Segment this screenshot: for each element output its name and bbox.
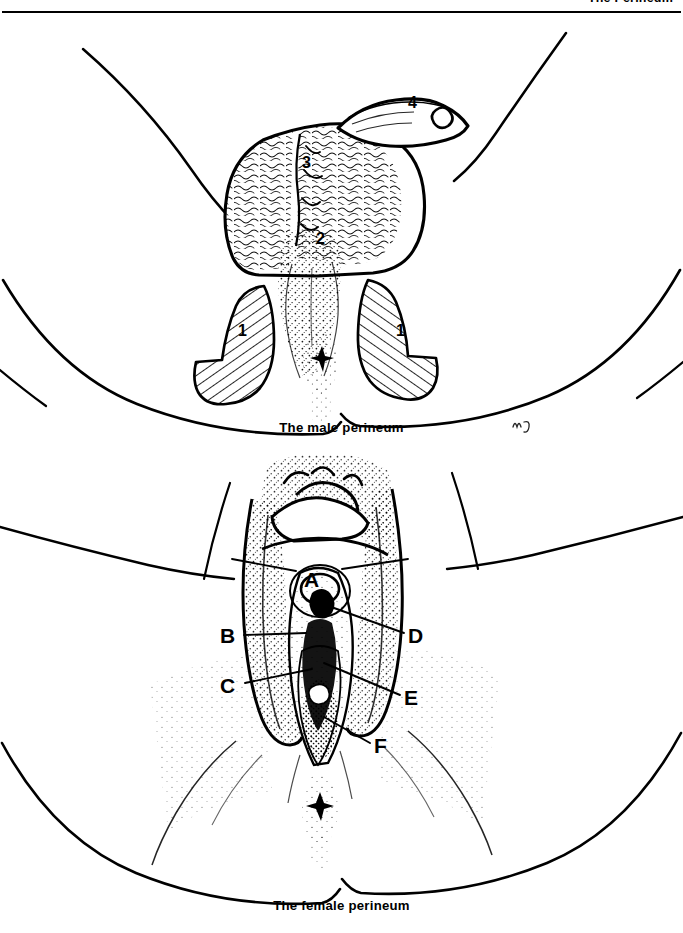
label-3: 3 bbox=[302, 154, 311, 171]
male-lower-body-contour bbox=[0, 270, 683, 434]
male-anus bbox=[303, 328, 337, 424]
label-d: D bbox=[408, 624, 423, 647]
label-4: 4 bbox=[408, 94, 417, 111]
label-e: E bbox=[404, 686, 418, 709]
label-c: C bbox=[220, 674, 235, 697]
figure-male-perineum: 1 1 2 3 4 The male perineum bbox=[0, 18, 683, 438]
male-thigh-cut-surface-right bbox=[358, 280, 438, 400]
male-perineum-illustration: 1 1 2 3 4 bbox=[0, 18, 683, 420]
label-1-right: 1 bbox=[396, 322, 405, 339]
label-b: B bbox=[220, 624, 235, 647]
female-lower-body-contour bbox=[2, 733, 681, 904]
label-2: 2 bbox=[316, 230, 325, 247]
header-rule bbox=[2, 11, 681, 13]
label-1-left: 1 bbox=[238, 322, 247, 339]
figure-female-perineum: A B C D E F The female perineum bbox=[0, 455, 683, 923]
male-figure-caption: The male perineum bbox=[0, 420, 683, 435]
female-perineum-illustration: A B C D E F bbox=[0, 455, 683, 895]
female-figure-caption: The female perineum bbox=[0, 898, 683, 913]
male-thigh-cut-surface-left bbox=[194, 286, 274, 404]
male-penis bbox=[338, 99, 468, 147]
female-anus bbox=[288, 751, 352, 871]
page-header-title: The Perineum bbox=[588, 0, 673, 5]
label-a: A bbox=[304, 568, 319, 591]
label-f: F bbox=[374, 734, 387, 757]
female-mons-pubis bbox=[255, 455, 435, 555]
page-header: The Perineum bbox=[0, 0, 683, 18]
